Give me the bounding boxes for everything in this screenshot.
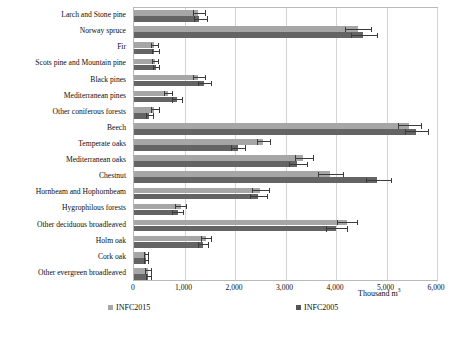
error-bar-line bbox=[326, 228, 347, 229]
bar-INFC2015 bbox=[134, 91, 168, 97]
error-bar-line bbox=[337, 222, 358, 223]
legend-label: INFC2005 bbox=[304, 303, 338, 312]
error-bar-line bbox=[164, 93, 172, 94]
error-bar-cap-high bbox=[158, 59, 159, 65]
error-bar-cap-low bbox=[151, 107, 152, 113]
category-label: Black pines bbox=[0, 75, 126, 84]
error-bar-cap-high bbox=[205, 75, 206, 81]
error-bar-line bbox=[405, 131, 429, 132]
error-bar-cap-high bbox=[148, 252, 149, 258]
error-bar-line bbox=[172, 99, 182, 100]
bar-INFC2005 bbox=[134, 81, 204, 87]
error-bar-cap-low bbox=[144, 252, 145, 258]
error-bar-cap-low bbox=[398, 123, 399, 129]
error-bar-line bbox=[252, 190, 269, 191]
error-bar-cap-low bbox=[146, 274, 147, 280]
bar-INFC2015 bbox=[134, 75, 198, 81]
bar-INFC2015 bbox=[134, 139, 263, 145]
error-bar-cap-low bbox=[337, 220, 338, 226]
error-bar-line bbox=[366, 180, 391, 181]
error-bar-line bbox=[289, 164, 307, 165]
error-bar-cap-low bbox=[231, 145, 232, 151]
error-bar-cap-low bbox=[366, 178, 367, 184]
bar-INFC2005 bbox=[134, 242, 203, 248]
error-bar-cap-low bbox=[252, 188, 253, 194]
error-bar-cap-low bbox=[318, 172, 319, 178]
bar-INFC2005 bbox=[134, 97, 177, 103]
error-bar-cap-low bbox=[194, 16, 195, 22]
category-label: Other evergreen broadleaved bbox=[0, 268, 126, 277]
legend-label: INFC2015 bbox=[116, 303, 150, 312]
bar-INFC2005 bbox=[134, 177, 377, 183]
error-bar-cap-high bbox=[208, 242, 209, 248]
error-bar-line bbox=[231, 148, 244, 149]
error-bar-cap-low bbox=[172, 97, 173, 103]
error-bar-line bbox=[318, 174, 342, 175]
error-bar-cap-high bbox=[159, 65, 160, 71]
category-label: Larch and Stone pine bbox=[0, 10, 126, 19]
category-label: Temperate oaks bbox=[0, 139, 126, 148]
x-tick-label: 2,000 bbox=[225, 283, 242, 292]
bar-INFC2015 bbox=[134, 220, 347, 226]
category-label: Other deciduous broadleaved bbox=[0, 220, 126, 229]
legend-item-INFC2015: INFC2015 bbox=[108, 303, 150, 312]
error-bar-cap-low bbox=[198, 81, 199, 87]
error-bar-cap-high bbox=[151, 274, 152, 280]
gridline bbox=[437, 8, 438, 280]
bar-INFC2005 bbox=[134, 16, 199, 22]
error-bar-cap-low bbox=[405, 129, 406, 135]
error-bar-cap-high bbox=[307, 162, 308, 168]
error-bar-cap-high bbox=[245, 145, 246, 151]
error-bar-cap-high bbox=[151, 268, 152, 274]
error-bar-cap-low bbox=[193, 75, 194, 81]
error-bar-line bbox=[257, 141, 271, 142]
error-bar-cap-low bbox=[198, 242, 199, 248]
category-label: Norway spruce bbox=[0, 26, 126, 35]
error-bar-cap-low bbox=[145, 268, 146, 274]
error-bar-cap-low bbox=[250, 194, 251, 200]
error-bar-line bbox=[194, 19, 208, 20]
error-bar-cap-high bbox=[357, 220, 358, 226]
error-bar-cap-high bbox=[270, 139, 271, 145]
error-bar-line bbox=[198, 83, 211, 84]
error-bar-cap-low bbox=[172, 210, 173, 216]
error-bar-cap-high bbox=[269, 188, 270, 194]
error-bar-cap-high bbox=[347, 226, 348, 232]
error-bar-cap-high bbox=[428, 129, 429, 135]
error-bar-line bbox=[175, 206, 186, 207]
bar-INFC2005 bbox=[134, 194, 258, 200]
chart-legend: INFC2015INFC2005 bbox=[100, 303, 456, 317]
error-bar-cap-high bbox=[153, 113, 154, 119]
error-bar-line bbox=[193, 77, 206, 78]
category-label: Mediterranean oaks bbox=[0, 155, 126, 164]
x-axis-title-superscript: 3 bbox=[398, 287, 401, 293]
error-bar-cap-high bbox=[267, 194, 268, 200]
error-bar-line bbox=[250, 196, 267, 197]
error-bar-line bbox=[151, 109, 160, 110]
category-label: Holm oak bbox=[0, 236, 126, 245]
bar-INFC2015 bbox=[134, 26, 358, 32]
gridline bbox=[387, 8, 388, 280]
legend-swatch-icon bbox=[296, 305, 301, 310]
error-bar-cap-low bbox=[153, 65, 154, 71]
error-bar-cap-high bbox=[377, 33, 378, 39]
error-bar-cap-low bbox=[164, 91, 165, 97]
error-bar-cap-high bbox=[186, 204, 187, 210]
bar-INFC2005 bbox=[134, 32, 363, 38]
error-bar-line bbox=[172, 212, 183, 213]
bar-INFC2005 bbox=[134, 145, 238, 151]
bar-INFC2015 bbox=[134, 171, 330, 177]
error-bar-cap-low bbox=[345, 27, 346, 33]
bar-INFC2005 bbox=[134, 129, 416, 135]
error-bar-cap-low bbox=[326, 226, 327, 232]
error-bar-cap-low bbox=[257, 139, 258, 145]
category-label: Other coniferous forests bbox=[0, 107, 126, 116]
x-tick-label: 0 bbox=[131, 283, 135, 292]
legend-swatch-icon bbox=[108, 305, 113, 310]
bar-INFC2015 bbox=[134, 10, 198, 16]
error-bar-cap-high bbox=[371, 27, 372, 33]
error-bar-cap-low bbox=[152, 49, 153, 55]
error-bar-line bbox=[351, 35, 377, 36]
error-bar-line bbox=[345, 29, 371, 30]
bar-INFC2015 bbox=[134, 123, 409, 129]
